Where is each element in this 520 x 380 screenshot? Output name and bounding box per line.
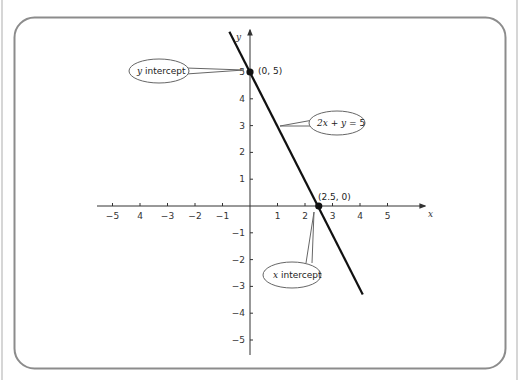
y-tick-label: −3 [232,281,245,291]
x-tick-label: −1 [216,211,229,221]
x-tick-label: −5 [106,211,119,221]
x-tick-label: −2 [188,211,201,221]
x-tick-label: 4 [357,211,363,221]
point-label-y-intercept: (0, 5) [258,66,282,76]
y-tick-label: −4 [232,308,246,318]
intercept-point [246,68,253,75]
point-label-x-intercept: (2.5, 0) [318,192,351,202]
x-tick-label: 4 [137,211,143,221]
callout-eq-end: = 5 [346,118,365,128]
x-tick-label: 3 [330,211,336,221]
y-axis-label: y [235,32,242,42]
svg-text:2x + y = 5: 2x + y = 5 [316,118,365,128]
y-tick-label: −1 [232,228,245,238]
x-tick-label: 1 [275,211,281,221]
callout-eq-2x: 2x [316,118,328,128]
callout-x-text: intercept [278,270,322,280]
x-axis-label: x [428,209,433,219]
y-tick-label: 5 [239,67,245,77]
x-tick-label: 5 [385,211,391,221]
svg-text:y intercept: y intercept [136,66,186,76]
y-tick-label: 2 [239,147,245,157]
x-tick-label: −3 [161,211,174,221]
y-tick-label: 3 [239,121,245,131]
y-tick-label: −5 [232,335,245,345]
intercept-point [315,202,322,209]
svg-text:x intercept: x intercept [273,270,322,280]
y-tick-label: 1 [239,174,245,184]
callout-eq-plus: + [328,118,341,128]
callout-y-text: intercept [142,66,186,76]
y-tick-label: −2 [232,255,245,265]
chart-figure: −54−3−2−11234554321−1−2−3−4−5 x y y inte… [0,0,520,380]
y-tick-label: 4 [239,94,245,104]
x-tick-label: 2 [302,211,308,221]
